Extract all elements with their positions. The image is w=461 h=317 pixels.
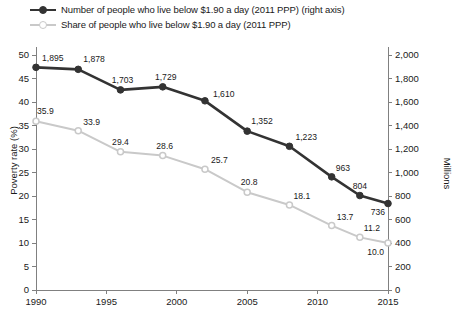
data-point-marker bbox=[75, 128, 81, 134]
data-point-label: 1,895 bbox=[42, 53, 64, 63]
data-point-label: 13.7 bbox=[337, 212, 354, 222]
x-axis-tick-label: 1995 bbox=[96, 296, 117, 307]
data-point-label: 20.8 bbox=[241, 177, 258, 187]
x-axis-tick-label: 2000 bbox=[166, 296, 187, 307]
y-axis-right-tick-label: 400 bbox=[395, 237, 411, 248]
y-axis-left-tick-label: 25 bbox=[18, 167, 29, 178]
data-point-marker bbox=[75, 66, 82, 73]
data-point-marker bbox=[117, 149, 123, 155]
data-point-label: 1,352 bbox=[251, 116, 273, 126]
data-point-label: 33.9 bbox=[83, 117, 100, 127]
data-point-label: 28.6 bbox=[156, 141, 173, 151]
data-point-label: 29.4 bbox=[112, 137, 129, 147]
y-axis-left-tick-label: 10 bbox=[18, 237, 29, 248]
y-axis-right-tick-label: 800 bbox=[395, 190, 411, 201]
data-point-marker bbox=[286, 202, 292, 208]
x-axis-ticks: 199019952000200520102015 bbox=[25, 290, 398, 307]
y-axis-right-tick-label: 1,200 bbox=[395, 143, 419, 154]
y-axis-right-tick-label: 1,800 bbox=[395, 73, 419, 84]
y-axis-right-tick-label: 1,000 bbox=[395, 167, 419, 178]
data-point-marker bbox=[159, 84, 166, 91]
y-axis-left-tick-label: 45 bbox=[18, 73, 29, 84]
y-axis-left-tick-label: 0 bbox=[24, 284, 29, 295]
y-axis-left-tick-label: 20 bbox=[18, 190, 29, 201]
y-axis-left-tick-label: 15 bbox=[18, 214, 29, 225]
data-point-marker bbox=[160, 153, 166, 159]
y-axis-right-tick-label: 1,600 bbox=[395, 96, 419, 107]
data-point-label: 1,610 bbox=[213, 89, 235, 99]
data-point-label: 1,878 bbox=[83, 54, 105, 64]
y-axis-right-tick-label: 600 bbox=[395, 214, 411, 225]
data-point-marker bbox=[357, 192, 364, 199]
data-point-marker bbox=[328, 174, 335, 181]
data-point-label: 35.9 bbox=[37, 106, 54, 116]
y-axis-right-tick-label: 200 bbox=[395, 261, 411, 272]
data-point-label: 1,703 bbox=[112, 75, 134, 85]
x-axis-tick-label: 2015 bbox=[377, 296, 398, 307]
data-point-marker bbox=[33, 64, 40, 71]
data-point-label: 736 bbox=[371, 207, 386, 217]
y-axis-right-tick-label: 2,000 bbox=[395, 49, 419, 60]
data-point-marker bbox=[244, 128, 251, 135]
data-point-marker bbox=[357, 234, 363, 240]
data-point-label: 11.2 bbox=[364, 223, 380, 233]
y-axis-left-tick-label: 40 bbox=[18, 96, 29, 107]
y-axis-left-tick-label: 50 bbox=[18, 49, 29, 60]
y-axis-left-tick-label: 5 bbox=[24, 261, 29, 272]
data-point-label: 10.0 bbox=[367, 247, 384, 257]
data-point-label: 963 bbox=[336, 163, 351, 173]
data-point-marker bbox=[385, 200, 392, 207]
data-point-label: 1,223 bbox=[295, 132, 317, 142]
data-point-label: 804 bbox=[353, 181, 368, 191]
poverty-chart: Number of people who live below $1.90 a … bbox=[0, 0, 461, 317]
y-axis-right-ticks: 02004006008001,0001,2001,4001,6001,8002,… bbox=[388, 49, 419, 295]
data-point-marker bbox=[329, 223, 335, 229]
x-axis-tick-label: 2010 bbox=[307, 296, 328, 307]
data-point-marker bbox=[202, 166, 208, 172]
data-point-marker bbox=[244, 189, 250, 195]
chart-plot-area: 05101520253035404550 02004006008001,0001… bbox=[0, 0, 461, 317]
data-point-marker bbox=[202, 98, 209, 105]
y-axis-left-tick-label: 35 bbox=[18, 120, 29, 131]
y-axis-left-tick-label: 30 bbox=[18, 143, 29, 154]
y-axis-left-ticks: 05101520253035404550 bbox=[18, 49, 36, 295]
y-axis-right-tick-label: 0 bbox=[395, 284, 400, 295]
data-point-label: 1,729 bbox=[155, 72, 177, 82]
x-axis-tick-label: 1990 bbox=[25, 296, 46, 307]
y-axis-right-tick-label: 1,400 bbox=[395, 120, 419, 131]
data-point-label: 25.7 bbox=[211, 155, 228, 165]
data-point-label: 18.1 bbox=[293, 191, 310, 201]
data-point-marker bbox=[385, 240, 391, 246]
x-axis-tick-label: 2005 bbox=[237, 296, 258, 307]
data-point-marker bbox=[33, 118, 39, 124]
data-point-marker bbox=[117, 87, 124, 94]
data-point-marker bbox=[286, 143, 293, 150]
